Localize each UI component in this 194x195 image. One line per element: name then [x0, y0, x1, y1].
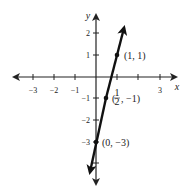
coordinate-graph: −3 −2 −1 3 x 2 1 −1 −2 −3 y (1, 1) ( 1	[0, 0, 194, 195]
x-axis-label: x	[174, 81, 180, 92]
x-tick-label: −1	[71, 86, 80, 95]
x-tick-label: −3	[29, 86, 38, 95]
y-axis-label: y	[85, 10, 91, 21]
x-tick-label: −2	[50, 86, 59, 95]
y-tick-label: −3	[81, 138, 90, 147]
x-tick-label: 3	[158, 86, 162, 95]
point-half-neg1	[104, 96, 109, 101]
y-axis: 2 1 −1 −2 −3 y	[81, 10, 99, 184]
point-label-0-neg3: (0, −3)	[102, 137, 129, 149]
point-1-1	[115, 53, 120, 58]
y-tick-label: 2	[86, 29, 90, 38]
svg-text:2: 2	[115, 96, 120, 107]
svg-text:, −1): , −1)	[121, 93, 140, 105]
point-0-neg3	[94, 140, 99, 145]
x-axis: −3 −2 −1 3 x	[14, 74, 180, 95]
point-label-1-1: (1, 1)	[124, 50, 146, 62]
y-tick-label: −2	[81, 116, 90, 125]
y-tick-label: −1	[81, 94, 90, 103]
point-label-half-neg1: ( 1 2 , −1)	[112, 87, 140, 107]
y-tick-label: 1	[86, 51, 90, 60]
